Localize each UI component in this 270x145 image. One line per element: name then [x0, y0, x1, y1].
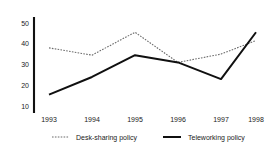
x-tick-label-1994: 1994 — [84, 116, 100, 123]
x-tick-label-1996: 1996 — [170, 116, 186, 123]
y-tick-label-10: 10 — [21, 103, 29, 110]
y-tick-label-50: 50 — [21, 20, 29, 27]
line-chart: 50 40 30 20 10 1993 1994 1995 1996 1997 … — [0, 0, 270, 145]
x-tick-label-1998: 1998 — [248, 116, 264, 123]
x-tick-label-1995: 1995 — [127, 116, 143, 123]
series-line-teleworking-policy — [49, 32, 256, 94]
chart-canvas: 50 40 30 20 10 1993 1994 1995 1996 1997 … — [0, 0, 270, 145]
legend-label-desk-sharing-policy: Desk-sharing policy — [76, 134, 138, 142]
y-tick-label-30: 30 — [21, 61, 29, 68]
x-tick-label-1997: 1997 — [213, 116, 229, 123]
y-tick-label-20: 20 — [21, 82, 29, 89]
legend-label-teleworking-policy: Teleworking policy — [188, 134, 245, 142]
x-tick-label-1993: 1993 — [41, 116, 57, 123]
y-tick-label-40: 40 — [21, 40, 29, 47]
